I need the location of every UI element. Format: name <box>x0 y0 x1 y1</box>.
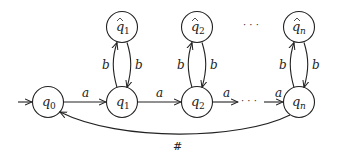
svg-text:a: a <box>156 86 163 100</box>
svg-text:n: n <box>300 26 306 36</box>
state-q2: q 2 <box>182 87 213 118</box>
svg-text:0: 0 <box>50 101 56 111</box>
svg-text:b: b <box>135 58 143 72</box>
state-q0: q 0 <box>33 87 64 118</box>
svg-text:b: b <box>102 58 110 72</box>
svg-text:b: b <box>177 58 185 72</box>
svg-text:n: n <box>300 101 306 111</box>
state-q1: q 1 <box>107 87 138 118</box>
svg-text:1: 1 <box>124 101 130 111</box>
svg-text:b: b <box>312 58 320 72</box>
state-q-hat-1: q 1 <box>107 12 138 43</box>
svg-text:2: 2 <box>199 101 205 111</box>
svg-text:b: b <box>279 58 287 72</box>
ellipsis-top: · · · <box>243 19 259 30</box>
state-q-hat-n: q n <box>284 12 315 43</box>
svg-text:#: # <box>173 140 182 153</box>
svg-text:b: b <box>210 58 218 72</box>
edge-q1-qh1 <box>113 43 117 88</box>
svg-text:2: 2 <box>199 26 205 36</box>
svg-text:a: a <box>223 86 230 100</box>
edge-qh2-q2 <box>202 43 206 88</box>
state-q-hat-2: q 2 <box>182 12 213 43</box>
state-qn: q n <box>284 87 315 118</box>
edge-qh1-q1 <box>127 43 131 88</box>
ellipsis-bottom: · · · <box>241 95 257 106</box>
svg-text:1: 1 <box>124 26 130 36</box>
edge-qhn-qn <box>304 43 308 88</box>
svg-text:a: a <box>275 86 282 100</box>
svg-text:a: a <box>82 86 89 100</box>
edge-q2-qh2 <box>188 43 192 88</box>
edge-qn-q0 <box>60 112 290 134</box>
automaton-diagram: q 0 q 1 q 2 q n q 1 q 2 q n a a a · <box>0 0 341 156</box>
edge-qn-qhn <box>290 43 294 88</box>
